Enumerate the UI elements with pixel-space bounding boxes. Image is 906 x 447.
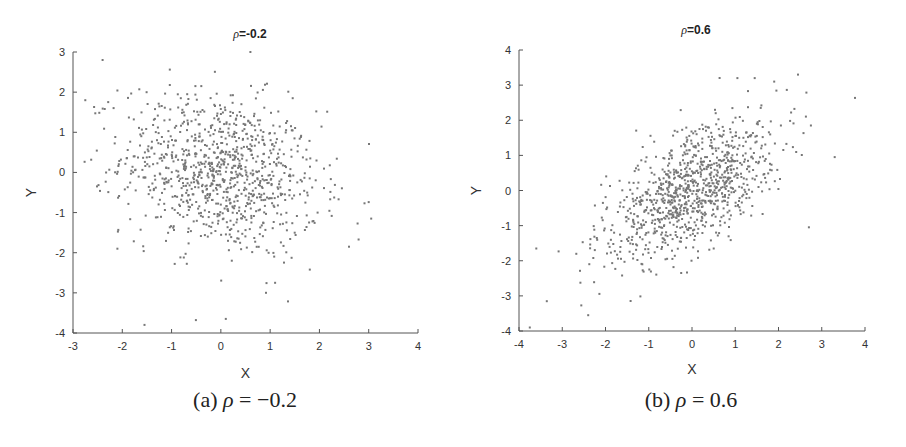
y-tick-label: -1	[501, 220, 511, 232]
x-tick-label: 1	[267, 340, 273, 352]
x-tick-label: 1	[732, 338, 738, 350]
y-tick-label: -4	[501, 325, 511, 337]
y-tick-label: 0	[505, 185, 511, 197]
y-tick-label: -1	[55, 207, 65, 219]
y-tick-label: -3	[55, 287, 65, 299]
y-axis-label: Y	[23, 187, 39, 197]
y-tick-label: 4	[505, 44, 511, 56]
x-tick-label: 3	[819, 338, 825, 350]
y-axis-label: Y	[468, 185, 484, 195]
caption-a-value: = −0.2	[239, 387, 297, 412]
chart-title: ρ=0.6	[680, 23, 711, 37]
scatter-plot-b: ρ=0.6-4-3-2-101234-4-3-2-101234XY	[453, 0, 906, 447]
x-tick-label: -3	[68, 340, 78, 352]
x-tick-label: 2	[775, 338, 781, 350]
x-tick-label: -4	[514, 338, 524, 350]
axes	[73, 52, 418, 333]
caption-a: (a) ρ = −0.2	[193, 387, 297, 413]
x-tick-label: 0	[689, 338, 695, 350]
caption-b-value: = 0.6	[692, 387, 737, 412]
scatter-plot-a: ρ=-0.2-4-3-2-10123-3-2-101234XY	[0, 0, 453, 447]
chart-panel-a: ρ=-0.2-4-3-2-10123-3-2-101234XY (a) ρ = …	[0, 0, 453, 447]
chart-title: ρ=-0.2	[232, 27, 267, 41]
caption-b-prefix: (b)	[645, 387, 671, 412]
x-tick-label: 0	[218, 340, 224, 352]
y-tick-label: -3	[501, 290, 511, 302]
caption-b: (b) ρ = 0.6	[645, 387, 738, 413]
x-tick-label: -1	[167, 340, 177, 352]
y-tick-label: 3	[505, 79, 511, 91]
caption-a-prefix: (a)	[193, 387, 217, 412]
axes	[519, 50, 865, 331]
chart-panel-b: ρ=0.6-4-3-2-101234-4-3-2-101234XY (b) ρ …	[453, 0, 906, 447]
y-tick-label: 1	[59, 126, 65, 138]
x-tick-label: -2	[601, 338, 611, 350]
y-tick-label: 2	[59, 86, 65, 98]
scatter-points	[84, 51, 373, 326]
x-tick-label: 4	[415, 340, 421, 352]
y-tick-label: 3	[59, 46, 65, 58]
x-tick-label: 4	[862, 338, 868, 350]
y-tick-label: -2	[501, 255, 511, 267]
x-tick-label: -1	[644, 338, 654, 350]
caption-a-rho: ρ	[223, 387, 234, 412]
x-tick-label: -2	[117, 340, 127, 352]
x-tick-label: 3	[366, 340, 372, 352]
x-axis-label: X	[241, 365, 251, 381]
caption-b-rho: ρ	[676, 387, 687, 412]
y-tick-label: 2	[505, 114, 511, 126]
y-tick-label: 0	[59, 166, 65, 178]
x-axis-label: X	[687, 361, 697, 377]
x-tick-label: 2	[316, 340, 322, 352]
y-tick-label: -2	[55, 247, 65, 259]
y-tick-label: -4	[55, 327, 65, 339]
y-tick-label: 1	[505, 149, 511, 161]
scatter-points	[529, 74, 856, 329]
x-tick-label: -3	[557, 338, 567, 350]
